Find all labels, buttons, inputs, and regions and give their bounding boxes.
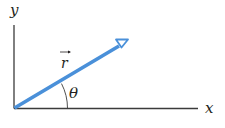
x-axis-label: x bbox=[205, 99, 214, 117]
vector-overbar-arrowhead bbox=[68, 51, 71, 54]
vector-label: r bbox=[61, 55, 69, 71]
angle-arc bbox=[62, 84, 68, 109]
vector-diagram: y x r θ bbox=[0, 0, 225, 128]
y-axis-label: y bbox=[9, 1, 19, 19]
angle-label: θ bbox=[69, 84, 78, 102]
